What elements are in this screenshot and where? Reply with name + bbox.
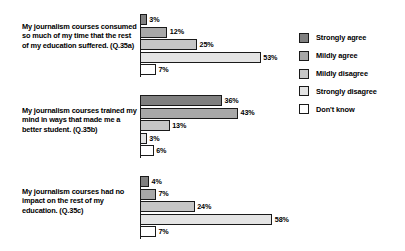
bar [140,176,149,187]
bar-value-label: 7% [158,190,168,197]
legend-label: Mildly agree [316,52,358,59]
legend-swatch-icon [299,86,309,96]
bar [140,52,261,63]
legend-item: Don't know [299,103,377,117]
question-label-q35b: My journalism courses trained my mind in… [22,106,137,134]
bar-value-label: 12% [170,28,184,35]
bar-row: 36% [140,95,255,106]
chart-legend: Strongly agreeMildly agreeMildly disagre… [299,31,377,120]
legend-label: Strongly disagree [316,88,377,95]
legend-item: Strongly disagree [299,85,377,99]
bar [140,189,156,200]
legend-item: Strongly agree [299,31,377,45]
bar-value-label: 13% [172,122,186,129]
bar-value-label: 4% [152,178,162,185]
legend-item: Mildly agree [299,49,377,63]
bar-chart: My journalism courses consumed so much o… [0,0,405,251]
bar-value-label: 7% [158,228,168,235]
bar-value-label: 36% [225,97,239,104]
legend-swatch-icon [299,69,309,79]
bar-row: 25% [140,39,277,50]
axis-spine [140,176,141,239]
bar [140,14,147,25]
bar [140,214,272,225]
bar-value-label: 24% [197,203,211,210]
bar [140,226,156,237]
bar-value-label: 7% [158,66,168,73]
bar-row: 13% [140,120,255,131]
legend-swatch-icon [299,33,309,43]
question-label-q35c: My journalism courses had no impact on t… [22,187,137,215]
bar-row: 7% [140,64,277,75]
axis-spine [140,14,141,77]
bar-value-label: 53% [263,54,277,61]
bar [140,39,197,50]
bar-value-label: 3% [149,16,159,23]
bar-value-label: 58% [275,216,289,223]
legend-swatch-icon [299,51,309,61]
bar-value-label: 3% [149,135,159,142]
bar-row: 7% [140,226,289,237]
bar [140,133,147,144]
bar-value-label: 43% [241,109,255,116]
bar-row: 12% [140,27,277,38]
legend-label: Don't know [316,106,355,113]
bar-row: 4% [140,176,289,187]
bar-group-q35b: 36%43%13%3%6% [140,95,255,158]
bar [140,27,167,38]
bar-row: 53% [140,52,277,63]
bar-group-q35c: 4%7%24%58%7% [140,176,289,239]
bar [140,108,238,119]
bar-row: 24% [140,201,289,212]
bar-value-label: 6% [156,147,166,154]
bar [140,145,154,156]
bar [140,201,195,212]
bar-group-q35a: 3%12%25%53%7% [140,14,277,77]
legend-label: Mildly disagree [316,70,368,77]
legend-item: Mildly disagree [299,67,377,81]
legend-swatch-icon [299,104,309,114]
bar-value-label: 25% [200,41,214,48]
bar [140,64,156,75]
bar-row: 7% [140,189,289,200]
legend-label: Strongly agree [316,34,366,41]
bar-row: 43% [140,108,255,119]
bar-row: 3% [140,14,277,25]
bar-row: 58% [140,214,289,225]
bar-row: 3% [140,133,255,144]
question-label-q35a: My journalism courses consumed so much o… [22,22,137,50]
bar [140,120,170,131]
bar-row: 6% [140,145,255,156]
bar [140,95,222,106]
axis-spine [140,95,141,158]
